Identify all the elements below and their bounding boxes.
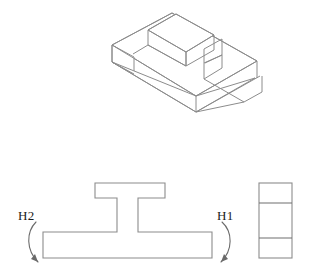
h2-arrowhead (31, 254, 38, 262)
h1-arrowhead (221, 254, 228, 262)
rotation-arrow-h2 (29, 222, 38, 262)
isometric-view (112, 13, 262, 112)
side-view (259, 183, 292, 258)
front-view (43, 183, 212, 258)
drawing-canvas: H2 H1 (0, 0, 313, 279)
rotation-arrow-h1 (221, 222, 230, 262)
technical-drawing: H2 H1 (0, 0, 313, 279)
side-view-outline (259, 183, 292, 258)
h2-arc (29, 222, 38, 262)
front-view-profile (43, 183, 212, 258)
label-h2: H2 (18, 208, 35, 223)
label-h1: H1 (217, 208, 234, 223)
